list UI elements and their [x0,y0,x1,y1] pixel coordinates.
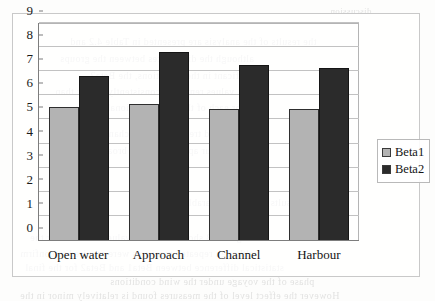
legend-swatch-icon [382,148,391,157]
bar-beta1 [289,109,319,240]
y-axis-tick-label: 8 [27,28,40,41]
y-axis-tick-label: 4 [27,124,40,137]
bar-group [279,23,359,240]
bar-beta1 [49,107,79,240]
y-axis-tick-label: 2 [27,172,40,185]
chart-legend: Beta1Beta2 [377,139,430,183]
bar-beta1 [209,109,239,240]
legend-label: Beta1 [395,144,424,161]
ghost-text-line: However the effect level of the measures… [20,290,339,301]
y-axis-tick-label: 5 [27,100,40,113]
bar-groups [39,23,359,240]
bar-beta2 [159,52,189,240]
chart-frame: 0123456789 Open waterApproachChannelHarb… [12,13,420,277]
x-axis-label: Approach [118,247,198,263]
x-axis-label: Channel [199,247,279,263]
bar-group [39,23,119,240]
x-axis-label: Open water [38,247,118,263]
x-axis-label: Harbour [279,247,359,263]
y-axis-tick-label: 1 [27,196,40,209]
bar-beta2 [239,65,269,240]
bar-group [119,23,199,240]
legend-item-beta1: Beta1 [382,144,424,161]
bar-group [199,23,279,240]
plot-area: 0123456789 [38,23,359,241]
y-axis-tick-label: 3 [27,148,40,161]
bar-beta2 [319,68,349,240]
y-axis-tick-label: 7 [27,52,40,65]
y-axis-tick-label: 0 [27,221,40,234]
legend-label: Beta2 [395,161,424,178]
bar-beta1 [129,104,159,240]
bar-beta2 [79,76,109,240]
y-axis-tick-label: 9 [27,4,40,17]
x-axis-category-labels: Open waterApproachChannelHarbour [38,247,359,263]
legend-item-beta2: Beta2 [382,161,424,178]
y-axis-tick-label: 6 [27,76,40,89]
ghost-text-line: phase of the voyage under the wind condi… [110,276,314,287]
legend-swatch-icon [382,165,391,174]
